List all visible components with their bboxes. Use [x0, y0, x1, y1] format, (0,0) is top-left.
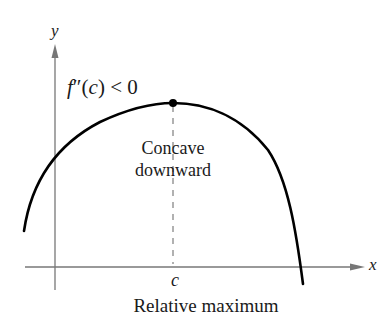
- concavity-label-line1: Concave: [142, 138, 205, 158]
- y-axis-label: y: [49, 21, 59, 40]
- concavity-label-line2: downward: [135, 160, 211, 180]
- concavity-diagram: y x f″(c) < 0 Concave downward c Relativ…: [0, 0, 387, 334]
- caption: Relative maximum: [133, 295, 278, 316]
- second-derivative-condition: f″(c) < 0: [67, 75, 138, 99]
- x-axis-arrow-icon: [350, 264, 365, 271]
- y-axis-arrow-icon: [52, 44, 59, 58]
- function-curve: [24, 103, 303, 284]
- relative-maximum-point: [169, 99, 177, 107]
- c-tick-label: c: [171, 270, 179, 290]
- x-axis-label: x: [368, 255, 377, 274]
